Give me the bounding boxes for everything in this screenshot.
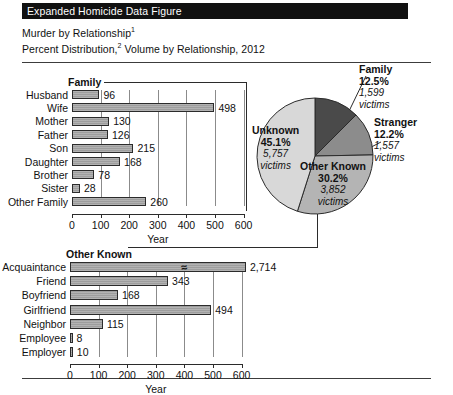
bar [70,276,168,286]
x-axis-tick [127,364,128,368]
gridline [242,262,243,357]
x-axis-title: Year [145,383,166,395]
x-axis-tick-label: 0 [67,370,73,381]
category-label: Employee [19,333,66,344]
bar-value-label: 2,714 [250,262,276,273]
x-axis-tick-label: 300 [147,370,165,381]
bar [70,333,73,343]
bar-value-label: 115 [107,319,124,330]
bar [70,347,73,357]
bar [70,319,103,329]
category-label: Neighbor [23,319,66,330]
bar-value-label: 10 [77,347,89,358]
group-label: Other Known [66,248,132,260]
category-label: Acquaintance [2,262,66,273]
category-label: Girlfriend [23,305,66,316]
group-bracket-riser [317,214,318,247]
bar [70,262,246,272]
x-axis-tick [184,364,185,368]
x-axis-tick [242,364,243,368]
bar-value-label: 343 [172,276,190,287]
bar [70,305,211,315]
x-axis-tick-label: 400 [176,370,194,381]
category-label: Boyfriend [22,290,66,301]
x-axis-tick-label: 600 [233,370,251,381]
x-axis-tick-label: 500 [204,370,222,381]
bar-value-label: 8 [77,333,83,344]
category-label: Friend [36,276,66,287]
axis-break-mark: ≈ [180,261,188,274]
x-axis-tick [70,364,71,368]
bar [70,290,118,300]
category-label: Employer [22,347,66,358]
bar-value-label: 168 [122,290,140,301]
gridline [213,262,214,357]
group-bracket [128,247,318,248]
x-axis-tick [156,364,157,368]
x-axis-tick [99,364,100,368]
x-axis-tick [213,364,214,368]
x-axis-tick-label: 200 [118,370,136,381]
bar-value-label: 494 [215,305,233,316]
x-axis-tick-label: 100 [90,370,108,381]
